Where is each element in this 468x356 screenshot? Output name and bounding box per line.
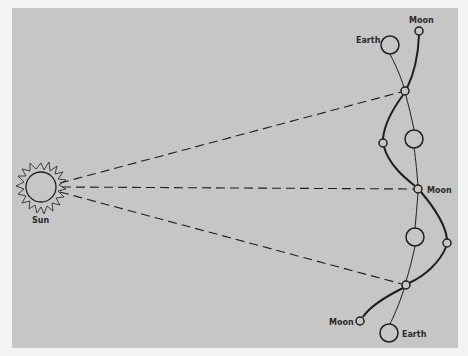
moon-crossing-3 <box>402 281 410 289</box>
moon-crossing-1 <box>401 87 409 95</box>
moon-orbit-path <box>363 35 447 317</box>
earth-label-top: Earth <box>356 36 381 45</box>
sunlight-rays <box>60 92 414 284</box>
earth-position-1 <box>381 36 399 54</box>
moon-crossing-2 <box>414 185 422 193</box>
moon-label-middle: Moon <box>427 186 452 195</box>
sun-icon <box>16 162 66 214</box>
earth-position-2 <box>405 130 423 148</box>
moon-position-3 <box>443 239 451 247</box>
moon-position-2 <box>379 139 387 147</box>
moon-label-top: Moon <box>409 16 434 25</box>
ray-upper <box>60 92 401 183</box>
moon-label-bottom: Moon <box>329 318 354 327</box>
ray-middle <box>62 187 414 189</box>
sun-earth-moon-diagram: Sun Earth Moon Moon Moon Earth <box>0 0 468 356</box>
sun-label: Sun <box>32 216 49 225</box>
moon-position-4 <box>356 317 364 325</box>
earth-position-4 <box>380 324 398 342</box>
moon-position-1 <box>415 27 423 35</box>
earth-position-3 <box>406 228 424 246</box>
earth-label-bottom: Earth <box>402 330 427 339</box>
ray-lower <box>60 192 402 284</box>
